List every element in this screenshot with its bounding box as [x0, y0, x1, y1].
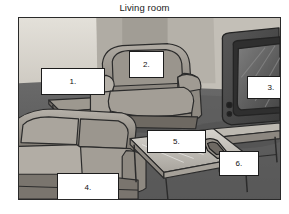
callout-label-2-text: 2. — [143, 60, 150, 69]
callout-label-4-text: 4. — [84, 183, 91, 192]
callout-label-6[interactable]: 6. — [219, 151, 259, 176]
callout-label-5-text: 5. — [173, 137, 180, 146]
callout-label-4[interactable]: 4. — [57, 173, 119, 200]
callout-label-5[interactable]: 5. — [147, 130, 206, 153]
callout-label-6-text: 6. — [235, 159, 242, 168]
callout-label-3[interactable]: 3. — [247, 76, 281, 99]
callout-label-3-text: 3. — [267, 83, 274, 92]
callout-label-1[interactable]: 1. — [41, 68, 105, 95]
page-root: Living room — [0, 0, 289, 214]
page-title: Living room — [0, 1, 289, 14]
callout-label-2[interactable]: 2. — [129, 51, 164, 78]
photo-frame: 1. 2. 3. 4. 5. 6. — [18, 17, 281, 200]
callout-label-1-text: 1. — [69, 77, 76, 86]
